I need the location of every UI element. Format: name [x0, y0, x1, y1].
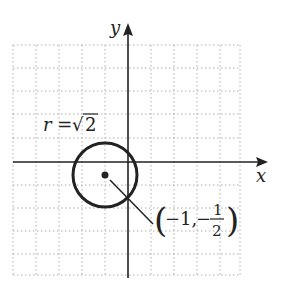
coordinate-diagram: y x r = √ 2 ( −1, − 1 2 ): [0, 0, 284, 281]
y-axis-label: y: [109, 17, 121, 38]
svg-text:2: 2: [212, 222, 222, 240]
svg-text:2: 2: [85, 114, 96, 135]
svg-text:r =: r =: [43, 114, 72, 135]
svg-text:−1,: −1,: [165, 208, 197, 229]
svg-text:1: 1: [213, 201, 223, 219]
leader-line: [110, 180, 153, 224]
center-point: [102, 172, 109, 179]
radius-label: r = √ 2: [43, 114, 98, 135]
svg-text:): ): [226, 200, 239, 240]
grid: [13, 45, 240, 275]
svg-text:√: √: [72, 114, 84, 135]
svg-text:−: −: [196, 208, 211, 229]
x-axis-label: x: [256, 165, 266, 186]
